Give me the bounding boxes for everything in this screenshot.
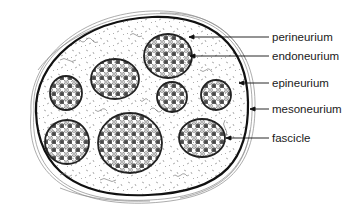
label-mesoneurium: mesoneurium [272,103,342,115]
fascicle [50,76,82,110]
fascicle [179,119,225,157]
fascicle [144,34,192,78]
fascicle [157,82,187,112]
label-perineurium: perineurium [272,31,333,43]
label-epineurium: epineurium [272,77,329,89]
label-endoneurium: endoneurium [272,50,339,62]
fascicle [98,113,162,173]
mesoneurium-arrowhead-icon [250,107,255,111]
fascicle [45,120,89,164]
fascicle [91,59,139,99]
label-fascicle: fascicle [272,132,310,144]
fascicle [201,80,231,110]
